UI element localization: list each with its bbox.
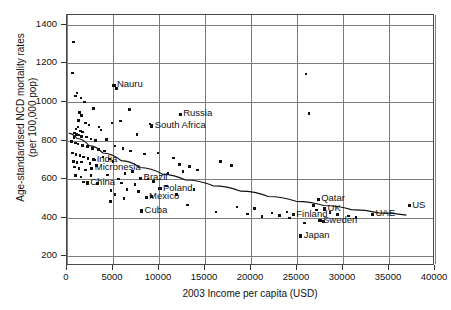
data-point-micronesia (90, 167, 93, 170)
data-point (134, 183, 137, 186)
y-tick-label: 200 (13, 249, 57, 260)
data-point-russia (179, 113, 182, 116)
data-point (83, 101, 86, 104)
data-point (86, 145, 89, 148)
data-point-label-japan: Japan (304, 230, 330, 240)
data-point (80, 176, 83, 179)
data-point (193, 188, 196, 191)
data-point (79, 154, 82, 157)
data-point (78, 167, 81, 170)
data-point (71, 72, 74, 75)
data-point-label-south-africa: South Africa (155, 120, 206, 130)
data-point (74, 174, 77, 177)
data-point (82, 156, 85, 159)
data-point (74, 95, 77, 98)
scatter-chart: Age-standardised NCD mortality rates (pe… (0, 0, 451, 310)
data-point (120, 182, 123, 185)
data-point (80, 135, 83, 138)
data-point (76, 161, 79, 164)
data-point (111, 122, 114, 125)
data-point (230, 164, 233, 167)
x-axis-title: 2003 Income per capita (USD) (66, 288, 434, 299)
data-point (110, 189, 113, 192)
data-point (186, 204, 189, 207)
data-point-label-us: US (412, 200, 425, 210)
data-point (82, 181, 85, 184)
y-tick-label: 1000 (13, 95, 57, 106)
data-point-label-nauru: Nauru (117, 79, 143, 89)
data-point-label-mexico: Mexico (149, 191, 179, 201)
gridline-vertical (205, 15, 206, 264)
data-point (72, 41, 75, 44)
data-point (84, 169, 87, 172)
x-tick-label: 40000 (404, 271, 451, 282)
y-tick-label: 800 (13, 134, 57, 145)
data-point (91, 147, 94, 150)
data-point-china (86, 181, 89, 184)
data-point (172, 157, 175, 160)
y-tick-mark (61, 178, 66, 179)
data-point (81, 144, 84, 147)
data-point (75, 153, 78, 156)
data-point (71, 152, 74, 155)
data-point-south-africa (150, 124, 153, 127)
data-point (105, 138, 108, 141)
gridline-horizontal (67, 256, 433, 257)
data-point (136, 133, 139, 136)
data-point (77, 143, 80, 146)
y-axis-title-line1: Age-standardised NCD mortality rates (15, 8, 27, 228)
y-tick-label: 600 (13, 172, 57, 183)
gridline-vertical (389, 15, 390, 264)
data-point-label-uk: UK (328, 203, 341, 213)
y-tick-mark (61, 255, 66, 256)
data-point-cuba (140, 209, 143, 212)
data-point (94, 139, 97, 142)
data-point (129, 150, 132, 153)
data-point (80, 161, 83, 164)
x-tick-mark (112, 265, 113, 270)
gridline-vertical (343, 15, 344, 264)
data-point (219, 160, 222, 163)
data-point (80, 97, 83, 100)
gridline-vertical (251, 15, 252, 264)
data-point (122, 147, 125, 150)
data-point (88, 124, 91, 127)
data-point (80, 114, 83, 117)
data-point (81, 131, 84, 134)
x-tick-mark (434, 265, 435, 270)
data-point-uae (371, 213, 374, 216)
y-tick-mark (61, 24, 66, 25)
data-point (271, 212, 274, 215)
data-point (77, 119, 80, 122)
gridline-vertical (67, 15, 68, 264)
data-point (87, 157, 90, 160)
data-point (117, 178, 120, 181)
y-axis-title-line2: (per 100,000 pop) (26, 8, 38, 228)
x-tick-mark (342, 265, 343, 270)
data-point-label-russia: Russia (183, 108, 212, 118)
data-point (73, 166, 76, 169)
data-point (188, 165, 191, 168)
data-point (178, 163, 181, 166)
data-point (182, 170, 185, 173)
gridline-horizontal (67, 25, 433, 26)
y-tick-mark (61, 101, 66, 102)
y-tick-label: 1200 (13, 56, 57, 67)
data-point (157, 152, 160, 155)
data-point (215, 211, 218, 214)
x-tick-mark (388, 265, 389, 270)
gridline-horizontal (67, 63, 433, 64)
data-point (143, 153, 146, 156)
data-point (100, 129, 103, 132)
data-point-finland (292, 213, 295, 216)
plot-area (66, 14, 434, 265)
data-point (92, 107, 95, 110)
data-point-nauru (112, 84, 115, 87)
y-tick-mark (61, 62, 66, 63)
data-point (90, 138, 93, 141)
gridline-vertical (159, 15, 160, 264)
data-point (236, 206, 239, 209)
data-point (137, 190, 140, 193)
data-point-sweden (318, 219, 321, 222)
data-point (305, 73, 308, 76)
